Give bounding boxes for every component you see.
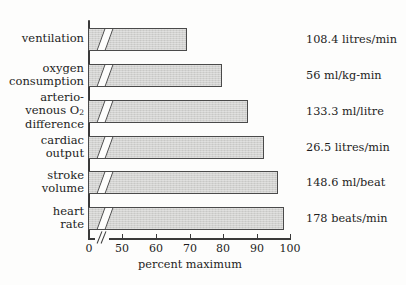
bar [88,100,248,123]
value-annotation: 148.6 ml/beat [306,176,385,189]
bar-break-stripe [94,64,115,87]
value-annotation: 178 beats/min [306,212,388,225]
bar [88,64,222,87]
bar [88,207,284,230]
x-axis-tick-label: 70 [183,242,197,255]
x-axis-tick [257,234,258,239]
bar-break-stripe [94,100,115,123]
value-annotation: 26.5 litres/min [306,141,390,154]
value-annotation: 56 ml/kg-min [306,69,382,82]
bar-break-stripe [94,207,115,230]
bar-break-stripe [94,28,115,51]
bar [88,171,278,194]
bar [88,28,187,51]
x-axis-tick-label: 60 [149,242,163,255]
value-annotation: 108.4 litres/min [306,33,397,46]
x-axis-tick-label: 100 [280,242,301,255]
value-annotation: 133.3 ml/litre [306,105,384,118]
category-label: heartrate [0,205,84,231]
x-axis-title: percent maximum [138,258,242,271]
x-axis-tick [122,234,123,239]
x-axis-tick [156,234,157,239]
bar [88,136,264,159]
x-axis-tick-label: 90 [250,242,264,255]
category-label: ventilation [0,32,84,45]
category-label: arterio-venous O2difference [0,91,84,130]
category-label: strokevolume [0,169,84,195]
x-axis-tick-label: 50 [115,242,129,255]
x-axis-tick [290,234,291,239]
x-axis-tick [190,234,191,239]
category-label: cardiacoutput [0,134,84,160]
x-axis-tick-label: 80 [216,242,230,255]
x-axis-break-icon [95,230,109,244]
x-axis-tick [223,234,224,239]
category-label: oxygenconsumption [0,62,84,88]
x-axis-tick [89,234,90,239]
x-axis-tick-label: 0 [86,242,93,255]
bar-chart-figure: ventilationoxygenconsumptionarterio-veno… [0,0,406,285]
bar-break-stripe [94,171,115,194]
bar-break-stripe [94,136,115,159]
